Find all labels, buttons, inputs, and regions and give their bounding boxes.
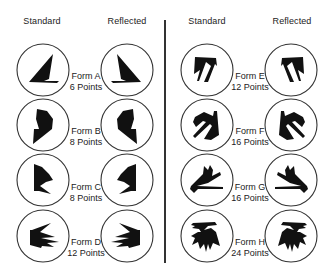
header-reflected-left: Reflected [108,16,147,26]
form-g-reflected-icon [264,153,318,207]
form-a-name: Form A [70,71,103,82]
form-f-name: Form F [231,126,269,137]
form-e-standard-icon [180,43,234,97]
form-a-label: Form A 6 Points [70,71,103,92]
form-g-label: Form G 16 Points [231,182,269,203]
form-c-label: Form C 8 Points [70,182,103,203]
form-a-reflected-icon [100,43,154,97]
form-f-reflected-icon [264,98,318,152]
form-c-points: 8 Points [70,193,103,204]
form-c-standard-icon [16,153,70,207]
form-f-label: Form F 16 Points [231,126,269,147]
header-standard-left: Standard [23,16,60,26]
form-h-standard-icon [180,209,234,263]
form-e-label: Form E 12 Points [231,71,269,92]
form-b-points: 8 Points [70,137,103,148]
form-h-label: Form H 24 Points [231,237,269,258]
form-g-points: 16 Points [231,193,269,204]
form-c-reflected-icon [100,153,154,207]
form-b-label: Form B 8 Points [70,126,103,147]
form-f-standard-icon [180,98,234,152]
form-e-points: 12 Points [231,82,269,93]
form-b-standard-icon [16,98,70,152]
form-d-points: 12 Points [67,248,105,259]
form-g-name: Form G [231,182,269,193]
form-d-standard-icon [16,209,70,263]
form-d-label: Form D 12 Points [67,237,105,258]
header-reflected-right: Reflected [273,16,312,26]
form-e-reflected-icon [264,43,318,97]
form-d-name: Form D [67,237,105,248]
form-c-name: Form C [70,182,103,193]
form-b-reflected-icon [100,98,154,152]
figure-panel: Standard Reflected Standard Reflected Fo… [0,0,330,271]
form-a-points: 6 Points [70,82,103,93]
form-e-name: Form E [231,71,269,82]
form-h-points: 24 Points [231,248,269,259]
form-a-standard-icon [16,43,70,97]
form-b-name: Form B [70,126,103,137]
form-g-standard-icon [180,153,234,207]
form-h-name: Form H [231,237,269,248]
form-h-reflected-icon [264,209,318,263]
header-standard-right: Standard [188,16,225,26]
column-divider [164,20,166,263]
form-f-points: 16 Points [231,137,269,148]
form-d-reflected-icon [100,209,154,263]
